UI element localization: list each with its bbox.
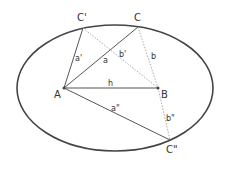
point-a-dot [63, 87, 66, 90]
label-b: b [151, 52, 156, 61]
label-b: B [161, 89, 168, 100]
label-h: h [108, 79, 113, 88]
ellipse-triangle-diagram: A B C C' C" h a a' a" b b' b" [0, 0, 227, 173]
label-c-double-prime: C" [166, 144, 178, 155]
point-b-dot [157, 87, 160, 90]
label-b-prime: b' [119, 50, 126, 59]
label-a-double-prime: a" [111, 104, 120, 113]
label-a-prime: a' [75, 54, 82, 63]
label-a: a [103, 56, 108, 65]
label-c-prime: C' [77, 12, 87, 23]
segment-a-double-prime [64, 88, 170, 140]
label-c: C [134, 12, 141, 23]
label-b-double-prime: b" [166, 114, 175, 123]
diagram-canvas: A B C C' C" h a a' a" b b' b" [0, 0, 227, 173]
label-a: A [54, 89, 61, 100]
